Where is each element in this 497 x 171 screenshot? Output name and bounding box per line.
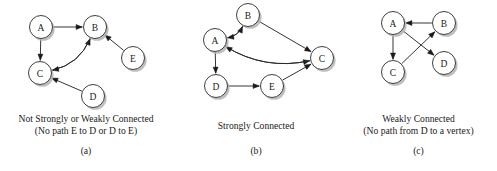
edge-a-to-c [225,46,309,63]
caption-c-line2: (No path from D to a vertex) [340,125,497,137]
node-b-label: B [92,23,98,33]
edge-b-to-c [258,21,311,52]
edge-c-to-a [226,47,310,64]
caption-a-line1: Not Strongly or Weakly Connected [0,113,172,125]
panel-letter-a: (a) [0,145,172,156]
node-d-label: D [441,59,448,69]
graph-panel-a: ABCDE Not Strongly or Weakly Connected (… [0,0,172,171]
edge-e-to-c-arrowhead [304,64,311,69]
node-c-label: C [37,69,43,79]
node-a-label: A [38,23,45,33]
node-e-label: E [269,82,275,92]
caption-c-line1: Weakly Connected [340,113,497,125]
node-b-label: B [441,19,447,29]
node-c-label: C [390,68,396,78]
graph-diagram-b: ABCDE [172,0,340,112]
edge-b-to-a-arrowhead [228,34,235,39]
caption-a: Not Strongly or Weakly Connected (No pat… [0,113,172,138]
node-d-label: D [90,92,97,102]
edge-b-to-c [52,38,90,70]
edge-d-to-e-arrowhead [253,84,259,89]
edge-c-to-b [402,32,435,64]
edge-b-to-c-arrowhead [52,66,59,71]
graph-panel-c: ABCD Weakly Connected (No path from D to… [340,0,497,171]
graph-diagram-a: ABCDE [0,0,172,112]
graph-diagram-c: ABCD [340,0,497,112]
caption-b: Strongly Connected [172,120,340,132]
node-e-label: E [130,54,136,64]
edge-b-to-c-arrowhead [304,46,311,51]
edge-c-to-b [52,39,90,71]
node-a-label: A [390,19,397,29]
node-b-label: B [245,11,251,21]
connectivity-figure: ABCDE Not Strongly or Weakly Connected (… [0,0,497,171]
caption-b-line1: Strongly Connected [172,120,340,132]
caption-a-line2: (No path E to D or D to E) [0,125,172,137]
node-c-label: C [319,54,325,64]
edge-a-to-b-arrowhead [76,25,82,30]
edge-a-to-d-arrowhead [428,49,434,55]
node-a-label: A [212,36,219,46]
edge-b-to-a-arrowhead [406,21,412,26]
caption-c: Weakly Connected (No path from D to a ve… [340,113,497,138]
panel-letter-c: (c) [340,145,497,156]
panel-letter-b: (b) [172,145,340,156]
node-d-label: D [213,82,220,92]
graph-panel-b: ABCDE Strongly Connected (b) [172,0,340,171]
edge-a-to-c-arrowhead [38,54,43,60]
edge-a-to-d-arrowhead [213,67,218,73]
edge-a-to-c-arrowhead [391,53,396,59]
